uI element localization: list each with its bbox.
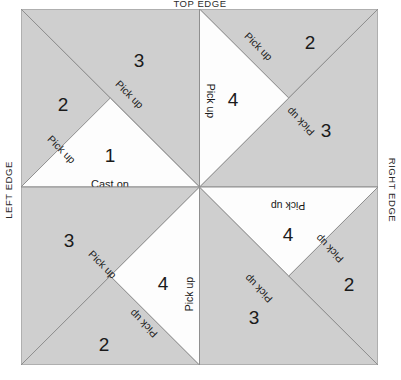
br-number-4: 4 — [283, 224, 294, 245]
tl-number-1: 1 — [105, 145, 116, 166]
br-number-2: 2 — [344, 274, 355, 295]
br-number-3: 3 — [249, 307, 260, 328]
top-edge-label: TOP EDGE — [173, 0, 226, 9]
left-edge-label: LEFT EDGE — [3, 161, 14, 219]
pattern-square: 3 2 1 Cast on Pick up Pick up 2 3 4 Pick… — [21, 9, 378, 365]
right-edge-label: RIGHT EDGE — [387, 158, 398, 222]
tl-number-3: 3 — [134, 50, 145, 71]
tr-pick-up-label-vertical: Pick up — [205, 84, 217, 119]
tr-number-4: 4 — [228, 89, 239, 110]
bl-number-3: 3 — [64, 230, 75, 251]
tr-number-2: 2 — [305, 32, 316, 53]
bl-number-2: 2 — [99, 334, 110, 355]
bl-pick-up-label-vertical: Pick up — [183, 277, 195, 312]
tl-number-2: 2 — [58, 94, 69, 115]
mitred-square-diagram: TOP EDGE LEFT EDGE RIGHT EDGE 3 2 1 Cast… — [0, 0, 401, 380]
tr-number-3: 3 — [321, 120, 332, 141]
bl-number-4: 4 — [158, 273, 169, 294]
br-pick-up-label-top: Pick up — [271, 200, 306, 212]
